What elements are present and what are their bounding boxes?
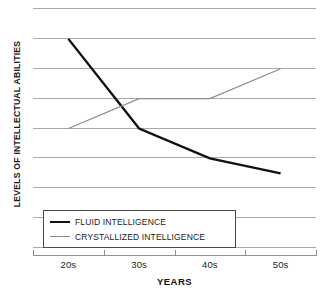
x-axis-tick — [316, 250, 317, 256]
x-axis-tick-label: 40s — [175, 259, 246, 270]
x-axis-tick-label: 50s — [245, 259, 316, 270]
crystallized-line-swatch — [50, 236, 70, 237]
legend-label-crystallized: CRYSTALLIZED INTELLIGENCE — [75, 232, 205, 242]
x-axis-tick-labels: 20s30s40s50s — [33, 259, 316, 275]
x-axis-tick-label: 30s — [104, 259, 175, 270]
intellectual-abilities-line-chart: LEVELS OF INTELLECTUAL ABILITIES FLUID I… — [0, 0, 330, 307]
fluid-line-swatch — [50, 221, 70, 223]
x-axis-tick — [104, 250, 105, 256]
x-axis-title: YEARS — [33, 276, 316, 287]
y-axis-title-text: LEVELS OF INTELLECTUAL ABILITIES — [12, 41, 22, 208]
legend-label-fluid: FLUID INTELLIGENCE — [75, 217, 166, 227]
x-axis-tick — [175, 250, 176, 256]
legend-item-fluid: FLUID INTELLIGENCE — [48, 214, 235, 229]
x-axis-tick — [33, 250, 34, 256]
chart-legend: FLUID INTELLIGENCE CRYSTALLIZED INTELLIG… — [43, 210, 236, 248]
y-axis-title: LEVELS OF INTELLECTUAL ABILITIES — [0, 0, 34, 248]
x-axis-tick — [245, 250, 246, 256]
series-line-fluid — [68, 39, 280, 173]
legend-item-crystallized: CRYSTALLIZED INTELLIGENCE — [48, 229, 235, 244]
x-axis-tick-label: 20s — [33, 259, 104, 270]
